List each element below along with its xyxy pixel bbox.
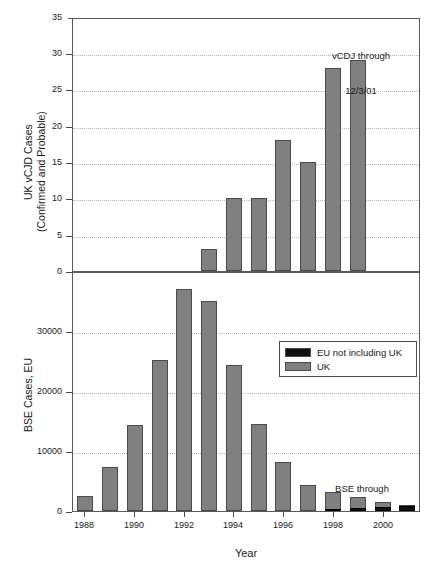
ytick-label-bottom-0: 0 bbox=[24, 507, 62, 516]
ytick-mark-top-35 bbox=[68, 18, 72, 19]
bar-vcjd-1997 bbox=[251, 198, 267, 271]
ytick-label-top-5: 5 bbox=[38, 231, 62, 240]
ytick-label-top-25: 25 bbox=[38, 85, 62, 94]
bar-bse-uk-1989 bbox=[102, 467, 118, 511]
ytick-mark-top-25 bbox=[66, 90, 72, 91]
xtick-label-1996: 1996 bbox=[263, 521, 303, 530]
legend-label-uk: UK bbox=[317, 361, 330, 372]
xtick-label-1998: 1998 bbox=[313, 521, 353, 530]
legend-label-eu: EU not including UK bbox=[317, 347, 402, 358]
bse-through-annotation: BSE through 9/30/01 bbox=[306, 460, 418, 512]
vcjd-through-annotation: vCDJ through 12/3/01 bbox=[305, 27, 417, 119]
x-axis-title: Year bbox=[176, 547, 316, 559]
xtick-mark-bottom-2000 bbox=[383, 512, 384, 517]
xtick-mark-bottom-1998 bbox=[333, 512, 334, 517]
xtick-label-2000: 2000 bbox=[363, 521, 403, 530]
bar-bse-uk-1996 bbox=[275, 462, 291, 511]
gridline-15 bbox=[73, 164, 419, 165]
xtick-label-1990: 1990 bbox=[114, 521, 154, 530]
bar-vcjd-1996 bbox=[226, 198, 242, 271]
xtick-mark-bottom-1992 bbox=[184, 512, 185, 517]
bar-bse-uk-1992 bbox=[176, 289, 192, 511]
bse-cases-panel: EU not including UK UK BSE through 9/30/… bbox=[72, 272, 420, 512]
xtick-label-1988: 1988 bbox=[64, 521, 104, 530]
bar-vcjd-1999 bbox=[300, 162, 316, 271]
bar-bse-uk-1994 bbox=[226, 365, 242, 511]
bar-vcjd-1998 bbox=[275, 140, 291, 271]
legend-item-uk: UK bbox=[285, 360, 410, 372]
bottom-panel-ylabel: BSE Cases, EU bbox=[22, 358, 34, 432]
bse-vcjd-dual-panel-chart: 35 30 25 20 15 10 5 0 UK vCJD Cases (Con… bbox=[0, 0, 437, 578]
gridline-20000 bbox=[73, 393, 419, 394]
xtick-label-1992: 1992 bbox=[164, 521, 204, 530]
ytick-mark-bottom-0 bbox=[66, 512, 72, 513]
legend-swatch-eu-icon bbox=[285, 348, 311, 357]
xtick-mark-bottom-1996 bbox=[283, 512, 284, 517]
gridline-10000 bbox=[73, 453, 419, 454]
ytick-label-top-30: 30 bbox=[38, 49, 62, 58]
ytick-mark-bottom-30000 bbox=[66, 332, 72, 333]
top-panel-ylabel-line1: UK vCJD Cases bbox=[22, 124, 34, 200]
ytick-mark-bottom-10000 bbox=[66, 452, 72, 453]
gridline-30000 bbox=[73, 333, 419, 334]
ytick-mark-bottom-20000 bbox=[66, 392, 72, 393]
bar-bse-uk-1993 bbox=[201, 301, 217, 511]
chart-legend: EU not including UK UK bbox=[279, 341, 417, 377]
gridline-20 bbox=[73, 128, 419, 129]
bar-bse-uk-1988 bbox=[77, 496, 93, 511]
bar-bse-uk-1990 bbox=[127, 425, 143, 511]
vcjd-annotation-line1: vCDJ through bbox=[305, 50, 417, 62]
top-panel-ylabel-line2: (Confirmed and Probable) bbox=[35, 111, 47, 232]
ytick-label-top-0: 0 bbox=[38, 267, 62, 276]
ytick-mark-top-10 bbox=[66, 199, 72, 200]
bar-bse-uk-1995 bbox=[251, 424, 267, 511]
vcjd-annotation-line2: 12/3/01 bbox=[305, 85, 417, 97]
ytick-mark-top-5 bbox=[66, 236, 72, 237]
bse-annotation-line1: BSE through bbox=[306, 483, 418, 495]
ytick-mark-top-20 bbox=[66, 127, 72, 128]
ytick-label-top-35: 35 bbox=[38, 13, 62, 22]
xtick-mark-bottom-1994 bbox=[233, 512, 234, 517]
xtick-mark-bottom-1988 bbox=[84, 512, 85, 517]
legend-swatch-uk-icon bbox=[285, 362, 311, 371]
ytick-mark-top-30 bbox=[66, 54, 72, 55]
gridline-5 bbox=[73, 237, 419, 238]
bar-vcjd-1995 bbox=[201, 249, 217, 271]
xtick-label-1994: 1994 bbox=[213, 521, 253, 530]
legend-item-eu: EU not including UK bbox=[285, 346, 410, 358]
ytick-mark-top-15 bbox=[66, 163, 72, 164]
ytick-label-bottom-30000: 30000 bbox=[24, 327, 62, 336]
xtick-mark-bottom-1990 bbox=[134, 512, 135, 517]
ytick-label-bottom-10000: 10000 bbox=[24, 447, 62, 456]
gridline-10 bbox=[73, 200, 419, 201]
bar-bse-uk-1991 bbox=[152, 360, 168, 511]
